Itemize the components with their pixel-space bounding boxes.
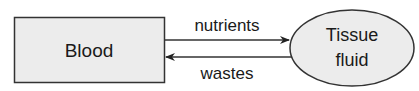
blood-label: Blood	[65, 40, 114, 61]
nutrients-arrow: nutrients	[165, 16, 289, 40]
wastes-arrow: wastes	[166, 57, 292, 83]
tissue-label: Tissue	[326, 25, 378, 45]
wastes-label: wastes	[200, 64, 254, 83]
tissue-fluid-node: Tissue fluid	[290, 10, 414, 86]
nutrients-label: nutrients	[194, 16, 259, 35]
diagram-canvas: Blood nutrients wastes Tissue fluid	[0, 0, 419, 91]
fluid-label: fluid	[335, 50, 368, 70]
blood-node: Blood	[15, 18, 165, 83]
